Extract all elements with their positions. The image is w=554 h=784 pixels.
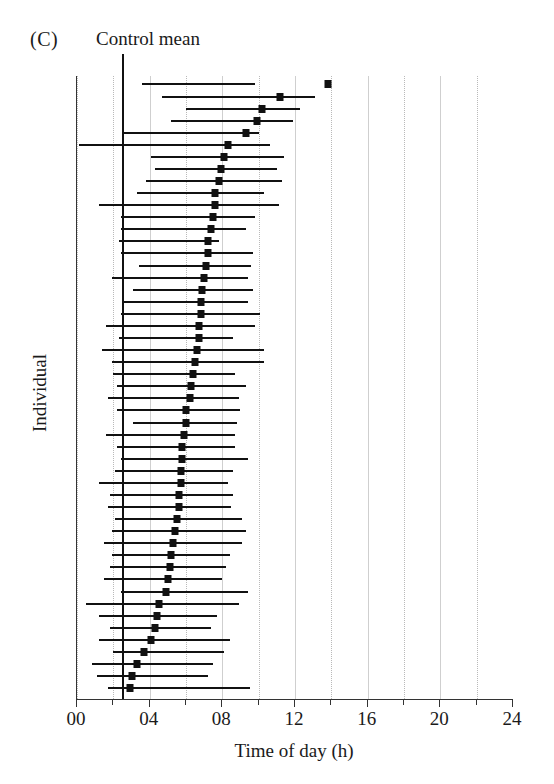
- data-row: [77, 175, 513, 187]
- data-row: [77, 308, 513, 320]
- x-tick-label: 08: [212, 708, 231, 730]
- data-row: [77, 332, 513, 344]
- estimate-marker: [179, 443, 186, 451]
- estimate-marker: [204, 237, 211, 245]
- data-row: [77, 489, 513, 501]
- range-bar: [117, 446, 235, 448]
- data-row: [77, 272, 513, 284]
- data-row: [77, 223, 513, 235]
- estimate-marker: [177, 479, 184, 487]
- range-bar: [121, 216, 255, 218]
- estimate-marker: [170, 539, 177, 547]
- range-bar: [121, 252, 254, 254]
- data-row: [77, 586, 513, 598]
- x-tick-minor: [258, 700, 259, 705]
- data-row: [77, 392, 513, 404]
- plot-area: [76, 76, 513, 700]
- estimate-marker: [204, 249, 211, 257]
- data-row: [77, 163, 513, 175]
- range-bar: [110, 494, 234, 496]
- range-bar: [133, 289, 253, 291]
- range-bar: [102, 349, 264, 351]
- data-row: [77, 404, 513, 416]
- range-bar: [117, 385, 246, 387]
- data-row: [77, 284, 513, 296]
- x-tick-label: 00: [67, 708, 86, 730]
- data-row: [77, 525, 513, 537]
- estimate-marker: [155, 600, 162, 608]
- estimate-marker: [210, 213, 217, 221]
- range-bar: [99, 204, 279, 206]
- data-row: [77, 501, 513, 513]
- estimate-marker: [148, 636, 155, 644]
- control-mean-annotation-label: Control mean: [96, 28, 200, 50]
- x-tick-minor: [330, 700, 331, 705]
- x-axis-tick-labels: 00040812162024: [76, 708, 513, 736]
- data-row: [77, 103, 513, 115]
- x-tick: [221, 700, 222, 707]
- figure-panel-c: (C) Control mean Individual 000408121620…: [0, 0, 554, 784]
- range-bar: [171, 120, 293, 122]
- data-row: [77, 115, 513, 127]
- range-bar: [108, 397, 239, 399]
- estimate-marker: [201, 274, 208, 282]
- estimate-marker: [259, 105, 266, 113]
- estimate-marker: [208, 225, 215, 233]
- data-row: [77, 670, 513, 682]
- control-mean-line: [122, 54, 124, 699]
- data-row: [77, 199, 513, 211]
- estimate-marker: [197, 298, 204, 306]
- data-row: [77, 78, 513, 90]
- estimate-marker: [190, 370, 197, 378]
- estimate-marker: [183, 406, 190, 414]
- estimate-marker: [215, 177, 222, 185]
- data-row: [77, 296, 513, 308]
- x-axis-label-text: Time of day (h): [234, 740, 353, 762]
- x-tick-label: 04: [139, 708, 158, 730]
- range-bar: [137, 192, 264, 194]
- x-tick-minor: [185, 700, 186, 705]
- x-tick: [149, 700, 150, 707]
- estimate-marker: [168, 551, 175, 559]
- estimate-marker: [163, 588, 170, 596]
- estimate-marker: [172, 527, 179, 535]
- data-row: [77, 416, 513, 428]
- x-tick-label: 16: [357, 708, 376, 730]
- estimate-marker: [212, 189, 219, 197]
- estimate-marker: [192, 358, 199, 366]
- data-row: [77, 127, 513, 139]
- estimate-marker: [177, 467, 184, 475]
- range-bar: [142, 83, 255, 85]
- estimate-marker: [128, 672, 135, 680]
- data-rows: [77, 76, 513, 699]
- range-bar: [124, 301, 248, 303]
- data-row: [77, 344, 513, 356]
- estimate-marker: [183, 419, 190, 427]
- estimate-marker: [224, 141, 231, 149]
- data-row: [77, 235, 513, 247]
- x-tick: [367, 700, 368, 707]
- x-axis-label: Time of day (h): [0, 740, 554, 762]
- data-row: [77, 658, 513, 670]
- data-row: [77, 441, 513, 453]
- data-row: [77, 260, 513, 272]
- data-row: [77, 465, 513, 477]
- x-tick-label: 20: [430, 708, 449, 730]
- data-row: [77, 187, 513, 199]
- range-bar: [112, 277, 248, 279]
- data-row: [77, 537, 513, 549]
- range-bar: [106, 434, 235, 436]
- data-row: [77, 561, 513, 573]
- range-bar: [86, 603, 239, 605]
- range-bar: [155, 168, 277, 170]
- range-bar: [79, 144, 270, 146]
- estimate-marker: [195, 322, 202, 330]
- estimate-marker: [186, 394, 193, 402]
- estimate-marker: [133, 660, 140, 668]
- estimate-marker: [197, 310, 204, 318]
- range-bar: [162, 96, 315, 98]
- range-bar: [106, 325, 255, 327]
- estimate-marker: [152, 624, 159, 632]
- data-row: [77, 90, 513, 102]
- estimate-marker: [193, 346, 200, 354]
